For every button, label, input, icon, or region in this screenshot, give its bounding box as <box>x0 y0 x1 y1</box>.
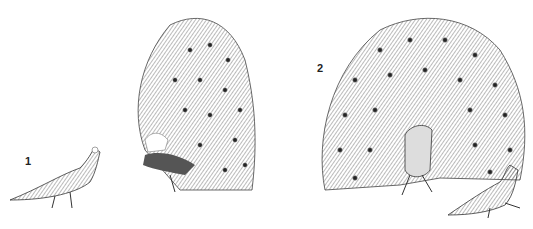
panel-label-2: 2 <box>317 62 323 74</box>
illustration: 1 2 <box>0 0 533 229</box>
peacock-2 <box>322 18 525 195</box>
peacock-1 <box>138 18 255 192</box>
panel-label-1: 1 <box>25 155 31 167</box>
peahen-1 <box>10 147 100 208</box>
peacock-drawings <box>0 0 533 229</box>
